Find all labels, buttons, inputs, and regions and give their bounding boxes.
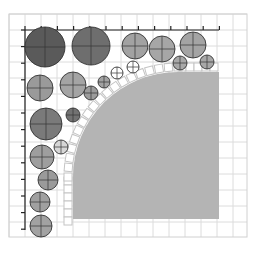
arc-tile — [65, 153, 74, 162]
packed-circle — [98, 76, 110, 88]
packed-circle — [30, 108, 62, 140]
arc-tile — [64, 209, 72, 217]
arc-tile — [64, 193, 72, 201]
arc-tile — [164, 63, 173, 72]
diagram-canvas — [0, 0, 256, 254]
arc-tile — [145, 66, 155, 76]
packed-circle — [180, 32, 206, 58]
packed-circle — [30, 192, 50, 212]
packed-circle — [173, 56, 187, 70]
packed-circle — [149, 36, 175, 62]
packed-circle — [122, 33, 148, 59]
arc-tile — [64, 163, 73, 172]
arc-tile — [67, 144, 77, 154]
packed-circle — [54, 140, 68, 154]
arc-tile — [73, 125, 84, 136]
arc-tile — [64, 217, 72, 225]
packed-circle — [127, 61, 139, 73]
arc-tile — [64, 185, 72, 193]
packed-circle — [60, 72, 86, 98]
packed-circle — [27, 75, 53, 101]
packed-circle — [72, 27, 110, 65]
packed-circle — [84, 86, 98, 100]
packed-circle — [25, 27, 65, 67]
packed-circle — [38, 170, 58, 190]
arc-tile — [70, 134, 80, 144]
packed-circle — [111, 67, 123, 79]
arc-tile — [154, 64, 163, 73]
packed-circle — [200, 55, 214, 69]
arc-tile — [64, 173, 72, 181]
packed-circle — [66, 108, 80, 122]
arc-tile — [64, 201, 72, 209]
packed-circle — [30, 145, 54, 169]
arc-tile — [126, 72, 137, 83]
packed-circle — [30, 215, 52, 237]
